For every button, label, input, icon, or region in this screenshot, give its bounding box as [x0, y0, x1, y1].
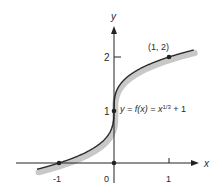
y-axis-arrow-icon — [111, 26, 117, 34]
function-label: y = f(x) = x1/3 + 1 — [119, 104, 186, 114]
point-0-1 — [112, 109, 117, 114]
point-neg1-0 — [57, 161, 62, 166]
y-tick-label-1: 1 — [104, 106, 110, 117]
x-axis-arrow-icon — [191, 160, 199, 166]
x-tick-label-1: 1 — [166, 174, 171, 184]
cube-root-graph: y x 2 1 -1 0 1 (1, 2) y = f(x) = x1/3 + … — [0, 0, 222, 194]
x-axis-label: x — [203, 158, 210, 169]
point-1-2 — [167, 55, 172, 60]
x-tick-label-neg1: -1 — [53, 174, 61, 184]
y-tick-label-2: 2 — [104, 52, 110, 63]
y-axis-label: y — [110, 11, 117, 22]
point-origin — [112, 161, 117, 166]
point-label-1-2: (1, 2) — [148, 42, 169, 52]
x-tick-label-0: 0 — [104, 174, 109, 184]
